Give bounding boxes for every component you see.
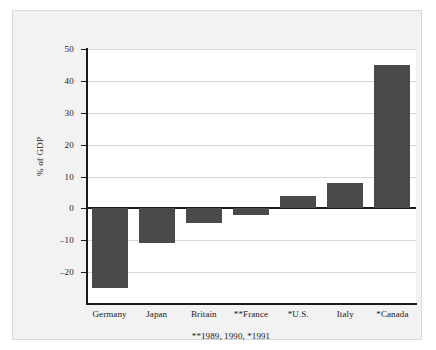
gridline: [86, 81, 416, 82]
bar: [374, 65, 410, 208]
y-tick-label: –20: [44, 267, 74, 277]
x-tick-label: *U.S.: [275, 309, 322, 319]
x-axis-spine: [86, 303, 417, 305]
x-tick-label: Germany: [86, 309, 133, 319]
gridline: [86, 177, 416, 178]
bar: [327, 183, 363, 209]
figure: 50403020100–10–20 GermanyJapanBritain**F…: [0, 0, 436, 350]
gridline: [86, 272, 416, 273]
gridline: [86, 240, 416, 241]
y-tick-label: 50: [44, 44, 74, 54]
y-tick-label: 30: [44, 108, 74, 118]
bar: [186, 208, 222, 222]
gridline: [86, 49, 416, 50]
y-tick-label: 10: [44, 172, 74, 182]
x-tick-label: Italy: [322, 309, 369, 319]
y-tick-label: 40: [44, 76, 74, 86]
y-tick-label: 20: [44, 140, 74, 150]
chart-panel: 50403020100–10–20 GermanyJapanBritain**F…: [12, 10, 422, 340]
y-tick-label: 0: [44, 203, 74, 213]
bar: [139, 208, 175, 243]
x-tick-label: Japan: [133, 309, 180, 319]
x-tick-label: **France: [227, 309, 274, 319]
bar: [92, 208, 128, 288]
gridline: [86, 113, 416, 114]
y-tick-label: –10: [44, 235, 74, 245]
y-axis-title: % of GDP: [35, 137, 45, 176]
x-tick-label: *Canada: [369, 309, 416, 319]
bar: [280, 196, 316, 209]
y-axis-spine: [86, 48, 88, 305]
x-tick-label: Britain: [180, 309, 227, 319]
bar: [233, 208, 269, 215]
chart-footnote: **1989, 1990, *1991: [13, 331, 436, 341]
gridline: [86, 145, 416, 146]
